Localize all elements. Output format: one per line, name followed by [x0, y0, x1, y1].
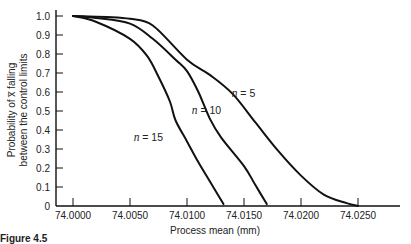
y-tick-label: 0 [44, 201, 50, 212]
curve-labels: n = 5n = 10n = 15 [134, 87, 256, 143]
x-tick-label: 74.0050 [112, 210, 149, 221]
y-tick-label: 0.8 [36, 49, 50, 60]
y-tick-label: 0.4 [36, 125, 50, 136]
y-tick-label: 0.6 [36, 87, 50, 98]
x-tick-label: 74.0100 [169, 210, 206, 221]
y-axis-title-line1: Probability of x̅ falling [6, 63, 17, 158]
axes [56, 10, 400, 206]
oc-curve-chart: 00.10.20.30.40.50.60.70.80.91.0 74.00007… [0, 0, 411, 244]
y-tick-label: 1.0 [36, 11, 50, 22]
x-tick-label: 74.0150 [226, 210, 263, 221]
curve-label: n = 5 [232, 87, 256, 99]
curve-label: n = 10 [192, 104, 222, 116]
x-tick-label: 74.0000 [55, 210, 92, 221]
figure-caption: Figure 4.5 [0, 233, 47, 244]
y-tick-label: 0.9 [36, 30, 50, 41]
x-axis-title: Process mean (mm) [170, 225, 260, 236]
curve-n10 [73, 16, 267, 204]
y-tick-label: 0.5 [36, 106, 50, 117]
y-tick-label: 0.1 [36, 182, 50, 193]
x-tick-label: 74.0200 [283, 210, 320, 221]
x-tick-label: 74.0250 [340, 210, 377, 221]
y-axis-title-line2: between the control limits [18, 54, 29, 167]
y-tick-label: 0.2 [36, 163, 50, 174]
y-tick-label: 0.3 [36, 144, 50, 155]
x-ticks: 74.000074.005074.010074.015074.020074.02… [55, 198, 377, 221]
y-axis-title: Probability of x̅ falling between the co… [6, 54, 29, 167]
y-ticks: 00.10.20.30.40.50.60.70.80.91.0 [36, 11, 63, 212]
curve-label: n = 15 [134, 131, 164, 143]
y-tick-label: 0.7 [36, 68, 50, 79]
